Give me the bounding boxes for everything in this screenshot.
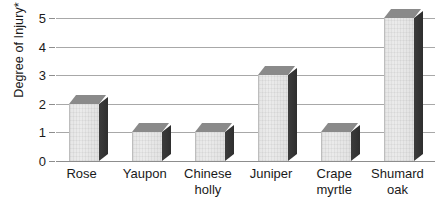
- x-axis-label-line: oak: [366, 182, 429, 198]
- x-axis-label-line: Shumard: [366, 166, 429, 182]
- x-axis-label-line: holly: [176, 182, 239, 198]
- x-axis-labels: RoseYauponChinesehollyJuniperCrapemyrtle…: [56, 166, 435, 212]
- bar-front-face: [384, 18, 414, 161]
- x-axis-label: Shumardoak: [366, 166, 429, 198]
- y-tick-mark: [49, 75, 55, 76]
- bar: [258, 75, 288, 161]
- bar-top-face: [69, 95, 106, 104]
- x-axis-label: Rose: [50, 166, 113, 182]
- y-tick-mark: [49, 18, 55, 19]
- y-tick-mark: [49, 104, 55, 105]
- y-tick-mark: [49, 161, 55, 162]
- bar-chart: Degree of Injury* 543210 RoseYauponChine…: [0, 0, 441, 213]
- x-axis-label-line: Crape: [303, 166, 366, 182]
- bar-front-face: [321, 132, 351, 161]
- plot-area: 543210: [56, 18, 435, 161]
- gridline: [56, 18, 435, 19]
- x-axis-label-line: myrtle: [303, 182, 366, 198]
- x-axis-label-line: Juniper: [240, 166, 303, 182]
- bar: [132, 132, 162, 161]
- y-tick-mark: [49, 132, 55, 133]
- bar-side-face: [414, 11, 423, 161]
- bar-side-face: [99, 97, 108, 161]
- bar: [384, 18, 414, 161]
- bar: [321, 132, 351, 161]
- bar-front-face: [132, 132, 162, 161]
- x-axis-label-line: Chinese: [176, 166, 239, 182]
- bar-side-face: [225, 125, 234, 161]
- bar-side-face: [162, 125, 171, 161]
- x-axis-label: Yaupon: [113, 166, 176, 182]
- gridline: [56, 104, 435, 105]
- bar: [195, 132, 225, 161]
- y-tick-label: 4: [26, 39, 46, 54]
- bar-front-face: [258, 75, 288, 161]
- y-tick-label: 2: [26, 96, 46, 111]
- y-tick-label: 5: [26, 11, 46, 26]
- gridline: [56, 161, 435, 162]
- gridline: [56, 75, 435, 76]
- bar-side-face: [351, 125, 360, 161]
- x-axis-label: Crapemyrtle: [303, 166, 366, 198]
- y-tick-mark: [49, 47, 55, 48]
- bar-front-face: [195, 132, 225, 161]
- gridline: [56, 47, 435, 48]
- x-axis-label: Juniper: [240, 166, 303, 182]
- bar-side-face: [288, 68, 297, 161]
- bar: [69, 104, 99, 161]
- bar-front-face: [69, 104, 99, 161]
- x-axis-label-line: Yaupon: [113, 166, 176, 182]
- x-axis-label-line: Rose: [50, 166, 113, 182]
- y-tick-label: 3: [26, 68, 46, 83]
- gridline: [56, 132, 435, 133]
- y-tick-label: 1: [26, 125, 46, 140]
- x-axis-label: Chineseholly: [176, 166, 239, 198]
- y-tick-label: 0: [26, 154, 46, 169]
